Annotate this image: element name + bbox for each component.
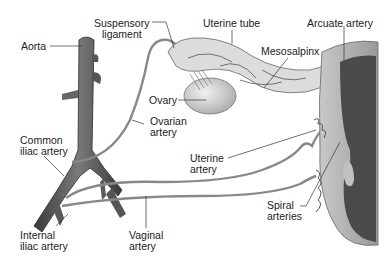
label-arcuate-artery: Arcuate artery	[307, 18, 373, 29]
label-aorta: Aorta	[21, 41, 46, 52]
label-ovarian-artery-line2: artery	[150, 127, 177, 138]
label-vaginal-artery-line2: artery	[129, 241, 156, 252]
label-uterine-tube: Uterine tube	[203, 18, 260, 29]
label-common-iliac-line2: iliac artery	[20, 146, 68, 157]
label-ovary: Ovary	[149, 95, 177, 106]
ovary-organ	[184, 78, 236, 114]
label-spiral-arteries-line2: arteries	[267, 211, 302, 222]
uterus-organ	[319, 41, 378, 245]
label-uterine-artery-line2: artery	[190, 164, 217, 175]
label-internal-iliac-line2: iliac artery	[20, 241, 68, 252]
label-suspensory-ligament-line2: ligament	[102, 29, 142, 40]
label-mesosalpinx: Mesosalpinx	[261, 46, 319, 57]
